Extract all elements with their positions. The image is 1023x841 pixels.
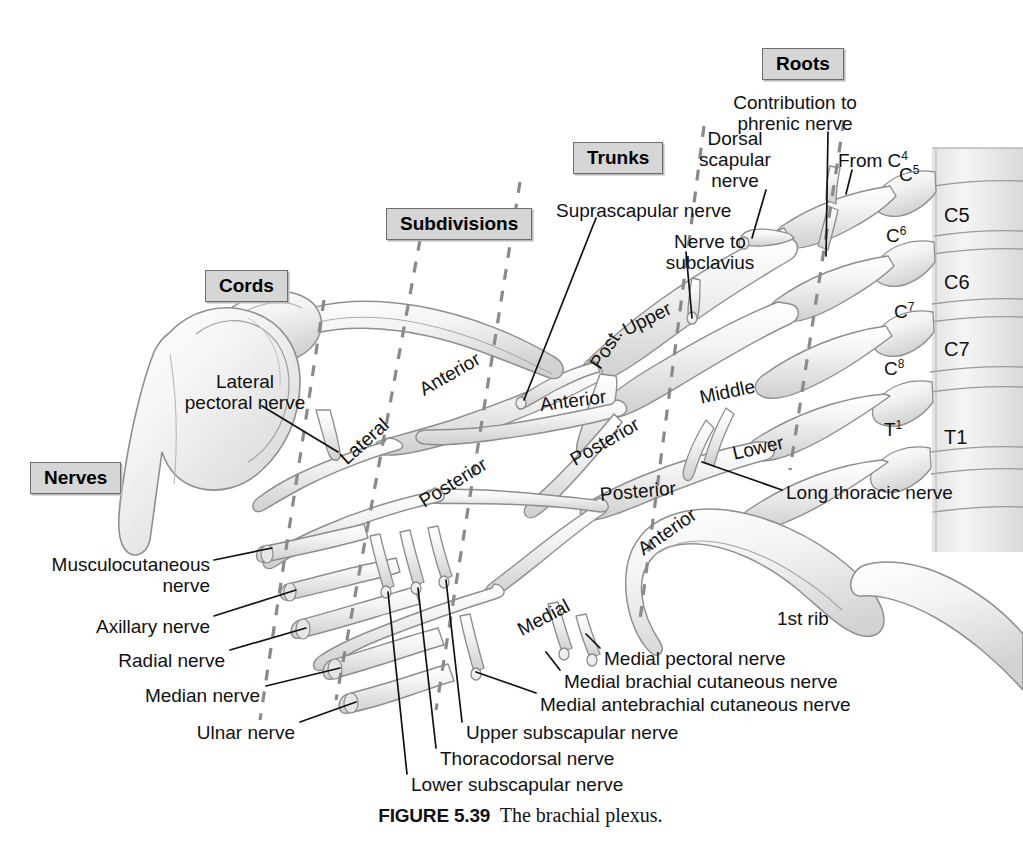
ulnar-nerve-label: Ulnar nerve <box>5 722 295 743</box>
root-label-t1: T1 <box>884 418 902 441</box>
musculocutaneous-nerve-label: Musculocutaneous nerve <box>5 554 210 596</box>
section-box-nerves: Nerves <box>30 462 121 494</box>
medial-antebrachial-cutaneous-nerve-label: Medial antebrachial cutaneous nerve <box>540 694 851 715</box>
nerve-to-subclavius-label: Nerve to subclavius <box>650 231 770 273</box>
first-rib-label: 1st rib <box>777 608 829 629</box>
figure-title: The brachial plexus. <box>500 804 663 826</box>
root-label-c6: C6 <box>886 224 906 247</box>
vertebra-label-c6: C6 <box>944 271 970 294</box>
figure-caption: FIGURE 5.39 The brachial plexus. <box>0 786 1023 841</box>
axillary-nerve-label: Axillary nerve <box>5 616 210 637</box>
section-box-roots: Roots <box>762 48 844 80</box>
clavicle <box>293 301 563 378</box>
vertebra-label-c5: C5 <box>944 204 970 227</box>
root-label-c8: C8 <box>884 357 904 380</box>
figure-number: FIGURE 5.39 <box>378 805 490 826</box>
radial-nerve-label: Radial nerve <box>5 650 225 671</box>
medial-brachial-cutaneous-nerve-label: Medial brachial cutaneous nerve <box>564 671 838 692</box>
divider-subdivisions-trunks <box>436 182 520 710</box>
from-c4-label: From C4 <box>838 146 908 171</box>
vertebra-label-c7: C7 <box>944 338 970 361</box>
dorsal-scapular-nerve-label: Dorsal scapular nerve <box>675 128 795 191</box>
thoracodorsal-nerve-label: Thoracodorsal nerve <box>440 748 614 769</box>
figure-canvas: Nerves Cords Subdivisions Trunks Roots C… <box>0 0 1023 841</box>
suprascapular-nerve-label: Suprascapular nerve <box>556 200 731 221</box>
humerus <box>119 308 300 555</box>
vertebra-label-t1: T1 <box>944 426 967 449</box>
section-box-cords: Cords <box>205 270 288 302</box>
long-thoracic-nerve-label: Long thoracic nerve <box>786 482 953 503</box>
medial-pectoral-nerve-label: Medial pectoral nerve <box>604 648 786 669</box>
upper-subscapular-nerve-label: Upper subscapular nerve <box>466 722 678 743</box>
section-box-subdivisions: Subdivisions <box>386 208 532 240</box>
root-label-c7: C7 <box>894 300 914 323</box>
lateral-pectoral-nerve-label: Lateral pectoral nerve <box>170 371 320 413</box>
section-box-trunks: Trunks <box>573 142 663 174</box>
median-nerve-label: Median nerve <box>5 685 260 706</box>
